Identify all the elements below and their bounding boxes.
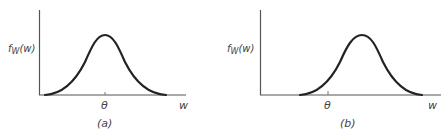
panel-a-plot — [39, 10, 186, 95]
panel-b-plot — [260, 10, 441, 95]
panel-b-x-label: w — [428, 99, 437, 112]
panel-a-y-label-arg: (w) — [19, 43, 35, 54]
panel-a-y-label: fW(w) — [8, 43, 35, 56]
panel-a-theta-label: θ — [101, 99, 108, 112]
panel-b-caption: (b) — [340, 117, 356, 130]
panel-b-theta-label: θ — [324, 99, 331, 112]
figure-canvas — [0, 0, 444, 135]
panel-a-caption: (a) — [97, 117, 112, 130]
panel-a-density-curve — [45, 35, 166, 95]
panel-b-y-label-arg: (w) — [238, 43, 254, 54]
panel-a-x-label: w — [179, 99, 188, 112]
panel-b-y-label: fW(w) — [227, 43, 254, 56]
panel-b-density-curve — [300, 35, 422, 95]
